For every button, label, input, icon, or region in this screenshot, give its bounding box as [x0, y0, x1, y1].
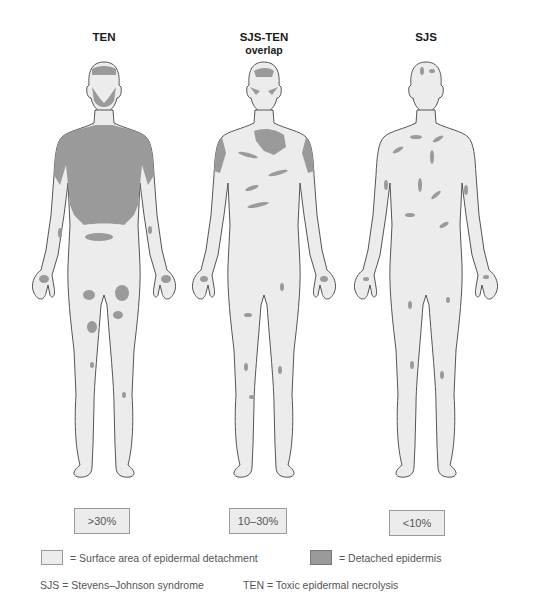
figure-sjs-ten	[192, 62, 335, 477]
swatch-light-icon	[41, 550, 63, 565]
body-figures-illustration	[0, 0, 542, 495]
swatch-dark-icon	[310, 550, 332, 565]
percentage-box-ten: >30%	[74, 508, 130, 534]
percentage-text: <10%	[403, 517, 431, 529]
percentage-box-sjs: <10%	[389, 510, 445, 536]
abbreviation-ten: TEN = Toxic epidermal necrolysis	[243, 579, 398, 591]
percentage-box-sjs-ten: 10–30%	[229, 508, 287, 534]
legend-label: = Detached epidermis	[339, 552, 441, 564]
legend-detached: = Detached epidermis	[310, 550, 441, 565]
legend-surface-area: = Surface area of epidermal detachment	[41, 550, 258, 565]
legend-label: = Surface area of epidermal detachment	[70, 552, 258, 564]
abbreviation-sjs: SJS = Stevens–Johnson syndrome	[40, 579, 204, 591]
figure-sjs	[354, 62, 497, 477]
percentage-text: >30%	[88, 515, 116, 527]
figure-ten	[32, 62, 175, 477]
percentage-text: 10–30%	[238, 515, 278, 527]
